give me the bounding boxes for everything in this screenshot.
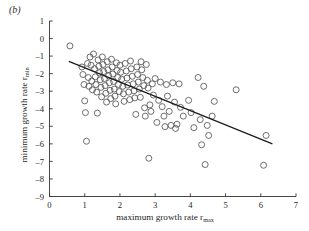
scatter-point [161,113,167,119]
y-tick-label: –8 [34,174,44,184]
scatter-point [152,76,158,82]
scatter-point [154,119,160,125]
scatter-point [139,67,145,73]
x-tick-label: 0 [47,200,51,210]
scatter-point [197,117,203,123]
regression-line [69,61,273,143]
scatter-point [201,83,207,89]
y-tick-label: 0 [40,34,44,44]
fit-line [69,61,273,143]
scatter-point [137,94,143,100]
scatter-point [94,110,100,116]
x-axis-ticks: 01234567 [47,193,299,210]
scatter-point [199,142,205,148]
y-tick-label: –2 [34,69,44,79]
scatter-point [107,87,113,93]
scatter-point [85,60,91,66]
y-tick-label: –6 [34,139,44,149]
scatter-point [211,98,217,104]
axes [50,21,297,197]
scatter-point [143,62,149,68]
scatter-point [180,113,186,119]
scatter-point [89,78,95,84]
scatter-point [113,101,119,107]
scatter-point [195,75,201,81]
scatter-point [166,108,172,114]
scatter-point [191,125,197,131]
scatter-point [186,97,192,103]
y-tick-label: –4 [34,104,44,114]
scatter-point [148,108,154,114]
y-axis-ticks: 10–1–2–3–4–5–6–7–8–9 [34,16,52,202]
x-tick-label: 1 [83,200,87,210]
scatter-point [157,79,163,85]
scatter-point [170,80,176,86]
x-tick-label: 4 [188,200,193,210]
scatter-point [233,87,239,93]
scatter-point [159,104,165,110]
scatter-point [103,90,109,96]
x-tick-label: 6 [259,200,264,210]
scatter-plot-canvas: 01234567 10–1–2–3–4–5–6–7–8–9 [0,0,309,231]
scatter-point [97,77,103,83]
x-tick-label: 3 [153,200,157,210]
scatter-point [88,62,94,68]
scatter-point [162,124,168,130]
scatter-point [95,57,101,63]
y-tick-label: –5 [34,121,44,131]
scatter-point [146,155,152,161]
scatter-point [104,99,110,105]
scatter-point [202,162,208,168]
scatter-point [82,98,88,104]
scatter-point [204,122,210,128]
scatter-point [206,132,212,138]
scatter-point [174,121,180,127]
scatter-point [163,82,169,88]
scatter-point [99,94,105,100]
scatter-point [85,75,91,81]
x-tick-label: 7 [294,200,299,210]
y-tick-label: –1 [34,51,44,61]
scatter-point [83,138,89,144]
scatter-point [118,69,124,75]
y-tick-label: –7 [34,157,44,167]
y-tick-label: 1 [40,16,44,26]
figure-panel-b: (b) minimum growth rate rmin maximum gro… [0,0,309,231]
scatter-point [147,102,153,108]
scatter-point [133,111,139,117]
y-tick-label: –3 [34,86,44,96]
scatter-point [173,125,179,131]
scatter-point [176,81,182,87]
x-tick-label: 2 [118,200,122,210]
scatter-point [164,93,170,99]
scatter-point [261,162,267,168]
scatter-point [127,58,133,64]
scatter-point [121,98,127,104]
data-points [67,43,269,168]
scatter-point [99,54,105,60]
scatter-point [67,43,73,49]
scatter-point [128,66,134,72]
y-tick-label: –9 [34,192,44,202]
scatter-point [82,110,88,116]
scatter-point [263,132,269,138]
scatter-point [106,80,112,86]
x-tick-label: 5 [223,200,227,210]
scatter-point [142,113,148,119]
